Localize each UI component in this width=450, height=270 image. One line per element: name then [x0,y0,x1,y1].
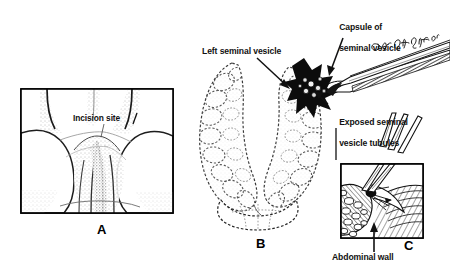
panel-letter-b: B [256,236,266,251]
panel-letter-c: C [404,238,414,253]
label-exposed-seminal-vesicle-tubules: Exposed seminal vesicle tubules [330,107,408,159]
label-capsule-of-seminal-vesicle: Capsule of seminal vesicle [330,12,401,64]
label-incision-site: Incision site [73,113,120,123]
label-abdominal-wall: Abdominal wall [332,252,394,262]
medical-figure: Incision site Left seminal vesicle Capsu… [0,0,450,270]
panel-c-artwork [339,164,423,238]
label-exposed-line-1: Exposed seminal [339,117,408,127]
label-exposed-line-2: vesicle tubules [339,138,399,148]
label-capsule-line-1: Capsule of [339,22,382,32]
panel-a-artwork [21,89,173,213]
label-left-seminal-vesicle: Left seminal vesicle [202,46,281,56]
panel-letter-a: A [97,222,107,237]
label-capsule-line-2: seminal vesicle [339,43,401,53]
